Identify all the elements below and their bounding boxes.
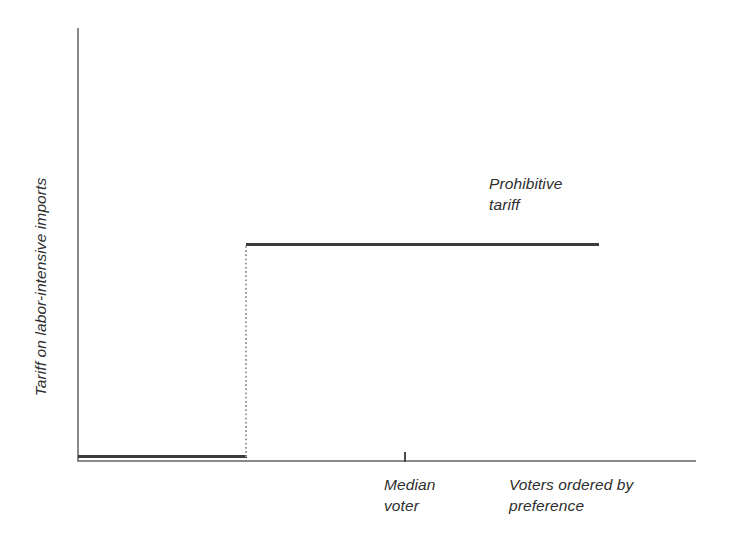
- median-voter-tick: [404, 452, 406, 462]
- low-tariff-segment: [78, 455, 247, 458]
- tariff-step-chart: Tariff on labor-intensive imports Prohib…: [0, 0, 733, 546]
- x-axis-caption: Voters ordered by preference: [509, 474, 633, 516]
- y-axis-line: [77, 28, 79, 462]
- y-axis-label: Tariff on labor-intensive imports: [30, 178, 51, 397]
- tariff-jump-dotted-riser: [245, 246, 247, 457]
- prohibitive-tariff-segment: [246, 243, 599, 246]
- x-axis-line: [77, 460, 696, 462]
- median-voter-label: Median voter: [384, 474, 435, 516]
- prohibitive-tariff-annotation: Prohibitive tariff: [489, 173, 562, 215]
